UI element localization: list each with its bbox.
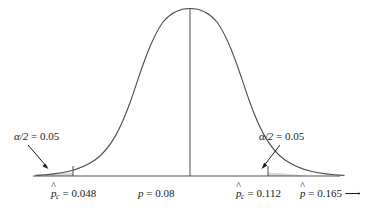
critical-low-subscript: c [56, 192, 59, 201]
normal-distribution-figure: α/2 = 0.05 α/2 = 0.05 pc = 0.048 p = 0.0… [0, 0, 380, 211]
alpha-right-value: 0.05 [285, 130, 304, 142]
critical-value-high-label: pc = 0.112 [236, 188, 281, 199]
alpha-left-value: 0.05 [40, 130, 59, 142]
critical-low-equals: = [63, 187, 69, 199]
alpha-left-symbol: α/2 [14, 130, 28, 142]
observed-variable: p [300, 188, 306, 199]
critical-high-equals: = [248, 187, 254, 199]
observed-statistic-label: p = 0.165 ⟶ [300, 188, 361, 199]
observed-equals: = [308, 187, 314, 199]
alpha-right-label: α/2 = 0.05 [259, 131, 304, 142]
center-variable: p [138, 187, 144, 199]
critical-high-subscript: c [241, 192, 244, 201]
alpha-left-label: α/2 = 0.05 [14, 131, 59, 142]
critical-high-value: 0.112 [257, 187, 281, 199]
observed-value: 0.165 [317, 187, 342, 199]
center-equals: = [146, 187, 152, 199]
critical-low-value: 0.048 [72, 187, 97, 199]
right-alpha-pointer-arrow [262, 145, 281, 169]
alpha-right-equals: = [276, 130, 282, 142]
distribution-plot [0, 0, 380, 211]
alpha-right-symbol: α/2 [259, 130, 273, 142]
observed-arrow-icon: ⟶ [345, 187, 361, 199]
alpha-left-equals: = [31, 130, 37, 142]
center-mean-label: p = 0.08 [138, 188, 174, 199]
center-value: 0.08 [155, 187, 174, 199]
left-alpha-pointer-arrow [28, 145, 49, 169]
critical-value-low-label: pc = 0.048 [51, 188, 96, 199]
